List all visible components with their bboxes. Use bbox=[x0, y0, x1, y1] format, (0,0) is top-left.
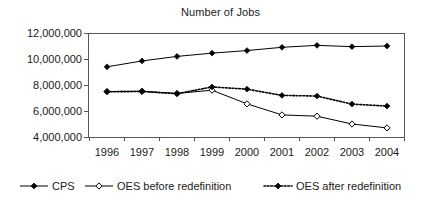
legend-item-oes-before-redefinition: OES before redefinition bbox=[85, 180, 231, 192]
data-point bbox=[279, 44, 285, 50]
y-tick-label: 8,000,000 bbox=[33, 79, 82, 91]
data-point bbox=[279, 93, 285, 99]
y-tick-label: 12,000,000 bbox=[27, 27, 82, 39]
legend-marker-swatch bbox=[275, 183, 281, 189]
data-point bbox=[104, 64, 110, 70]
data-point bbox=[384, 43, 390, 49]
legend-label: OES after redefinition bbox=[296, 180, 401, 192]
x-tick-label: 1996 bbox=[95, 146, 119, 158]
legend-label: CPS bbox=[52, 180, 75, 192]
data-point bbox=[244, 101, 250, 107]
data-point bbox=[384, 103, 390, 109]
x-tick-label: 2003 bbox=[340, 146, 364, 158]
y-axis-tick-labels: 12,000,00010,000,0008,000,0006,000,0004,… bbox=[27, 27, 82, 143]
legend-marker-swatch bbox=[31, 183, 37, 189]
y-tick-label: 10,000,000 bbox=[27, 53, 82, 65]
x-tick-label: 2002 bbox=[305, 146, 329, 158]
data-point bbox=[244, 48, 250, 54]
x-tick-label: 1997 bbox=[130, 146, 154, 158]
x-tick-label: 2001 bbox=[270, 146, 294, 158]
x-tick-label: 2000 bbox=[235, 146, 259, 158]
data-point bbox=[314, 42, 320, 48]
chart-legend: CPSOES before redefinitionOES after rede… bbox=[20, 180, 401, 192]
legend-marker-swatch bbox=[96, 183, 102, 189]
y-tick-label: 6,000,000 bbox=[33, 105, 82, 117]
series-line bbox=[107, 90, 387, 128]
series-oes-before-redefinition bbox=[104, 87, 390, 131]
chart-container: Number of Jobs 12,000,00010,000,0008,000… bbox=[0, 0, 441, 208]
data-point bbox=[139, 58, 145, 64]
data-point bbox=[174, 54, 180, 60]
data-point bbox=[314, 113, 320, 119]
data-point bbox=[349, 44, 355, 50]
data-point bbox=[314, 93, 320, 99]
legend-label: OES before redefinition bbox=[117, 180, 231, 192]
x-tick-label: 2004 bbox=[375, 146, 399, 158]
data-point bbox=[384, 125, 390, 131]
data-point bbox=[349, 101, 355, 107]
x-tick-label: 1999 bbox=[200, 146, 224, 158]
data-point bbox=[209, 50, 215, 56]
data-point bbox=[349, 121, 355, 127]
data-point bbox=[244, 86, 250, 92]
legend-item-oes-after-redefinition: OES after redefinition bbox=[264, 180, 401, 192]
legend-item-cps: CPS bbox=[20, 180, 75, 192]
x-axis-tick-labels: 199619971998199920002001200220032004 bbox=[95, 146, 399, 158]
y-tick-label: 4,000,000 bbox=[33, 131, 82, 143]
data-point bbox=[279, 112, 285, 118]
x-tick-label: 1998 bbox=[165, 146, 189, 158]
chart-series-layer bbox=[104, 42, 390, 131]
chart-plot: 12,000,00010,000,0008,000,0006,000,0004,… bbox=[0, 0, 441, 208]
series-cps bbox=[104, 42, 390, 69]
